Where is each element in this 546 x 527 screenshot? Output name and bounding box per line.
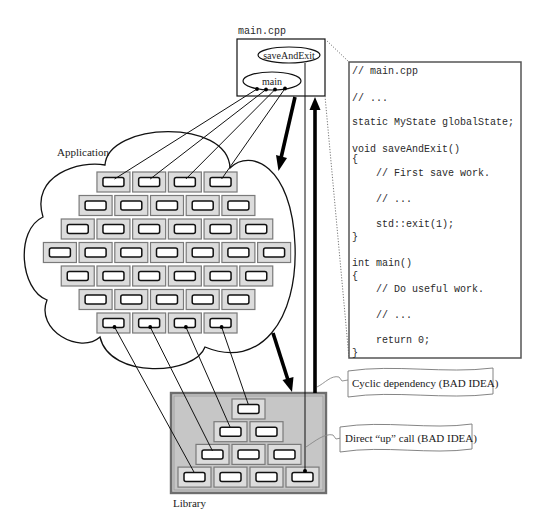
code-line: void saveAndExit() <box>352 144 460 155</box>
application-component <box>222 290 255 310</box>
code-line: return 0; <box>352 335 430 346</box>
callout-direct-up-call: Direct “up” call (BAD IDEA) <box>306 424 477 452</box>
code-line: // Do useful work. <box>352 284 484 295</box>
application-component <box>115 243 148 263</box>
library-component <box>232 399 265 419</box>
application-component <box>168 313 201 333</box>
application-component <box>97 313 130 333</box>
architecture-diagram: Application Library main.cpp saveAndExit… <box>0 0 546 527</box>
main-file-label: main.cpp <box>238 26 286 37</box>
library-label: Library <box>173 497 206 509</box>
library-component <box>232 444 265 464</box>
application-component <box>79 290 112 310</box>
library-component <box>286 467 319 487</box>
application-component <box>151 243 184 263</box>
application-component <box>43 243 76 263</box>
code-line: int main() <box>352 258 412 269</box>
application-component <box>61 219 94 239</box>
application-component <box>133 219 166 239</box>
code-line: static MyState globalState; <box>352 117 514 128</box>
code-line: } <box>352 348 358 359</box>
application-component <box>97 219 130 239</box>
code-line: // ... <box>352 194 412 205</box>
application-component <box>115 290 148 310</box>
application-component <box>204 172 237 192</box>
application-component <box>97 266 130 286</box>
application-component <box>204 219 237 239</box>
library-component <box>250 467 283 487</box>
application-component <box>240 266 273 286</box>
callout-cyclic-text: Cyclic dependency (BAD IDEA) <box>352 377 499 390</box>
code-line: // ... <box>352 93 388 104</box>
arrow-library-to-main-cyclic <box>310 97 321 393</box>
application-component <box>204 266 237 286</box>
arrow-main-to-application <box>276 97 295 171</box>
code-line: } <box>352 232 358 243</box>
library-component <box>250 422 283 442</box>
callout-direct-text: Direct “up” call (BAD IDEA) <box>345 432 477 445</box>
zoom-projection-line <box>325 96 349 358</box>
application-component <box>186 290 219 310</box>
library-component <box>178 467 211 487</box>
application-component <box>151 196 184 216</box>
code-line: // ... <box>352 310 412 321</box>
application-label: Application <box>57 146 109 158</box>
application-component <box>133 172 166 192</box>
save-and-exit-label: saveAndExit <box>263 50 315 61</box>
application-component <box>61 266 94 286</box>
application-component <box>97 172 130 192</box>
zoom-projection-line <box>325 39 349 62</box>
application-component <box>151 290 184 310</box>
library-component <box>268 444 301 464</box>
application-component <box>79 196 112 216</box>
application-component <box>186 196 219 216</box>
application-component <box>186 243 219 263</box>
code-line: // main.cpp <box>352 66 418 77</box>
arrow-application-to-library <box>273 333 294 392</box>
application-component <box>79 243 112 263</box>
callout-cyclic-dependency: Cyclic dependency (BAD IDEA) <box>317 368 499 397</box>
application-components <box>43 172 290 333</box>
application-component <box>133 313 166 333</box>
application-component <box>115 196 148 216</box>
code-line: // First save work. <box>352 168 490 179</box>
application-component <box>204 313 237 333</box>
application-component <box>168 172 201 192</box>
main-label: main <box>262 76 282 87</box>
application-component <box>222 243 255 263</box>
code-line: { <box>352 154 358 165</box>
library-component <box>196 444 229 464</box>
application-component <box>133 266 166 286</box>
application-component <box>168 266 201 286</box>
application-component <box>222 196 255 216</box>
application-component <box>258 243 291 263</box>
library-component <box>214 467 247 487</box>
application-component <box>168 219 201 239</box>
library-component <box>214 422 247 442</box>
code-line: { <box>352 271 358 282</box>
code-line: std::exit(1); <box>352 219 454 230</box>
application-component <box>240 219 273 239</box>
